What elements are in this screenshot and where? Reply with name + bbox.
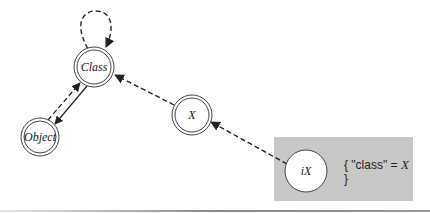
node-object-label: Object: [24, 130, 57, 144]
instance-attr-key: { "class" =: [344, 158, 401, 172]
node-x-label: X: [187, 108, 196, 122]
x-to-class-edge: [115, 75, 174, 105]
bottom-rule: [0, 210, 430, 212]
instance-attr-line1: { "class" = X: [344, 157, 410, 172]
node-class-label: Class: [81, 60, 108, 74]
node-class: Class: [74, 47, 114, 87]
node-x: X: [172, 95, 212, 135]
class-self-loop-edge: [81, 11, 111, 49]
node-ix-label: iX: [301, 164, 312, 178]
instance-attr-line2: }: [344, 172, 348, 186]
class-instance-diagram: Class Object X iX { "class" = X }: [0, 0, 430, 213]
class-to-object-edge: [55, 86, 87, 124]
node-object: Object: [21, 118, 59, 156]
instance-attr-value: X: [400, 157, 410, 172]
node-ix: iX: [285, 150, 327, 192]
object-to-class-edge: [48, 83, 80, 120]
